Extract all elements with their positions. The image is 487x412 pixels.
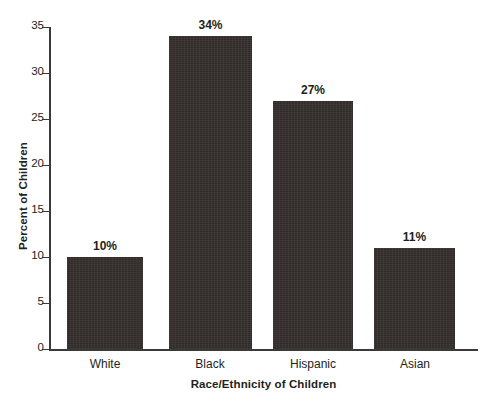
- bar-hispanic[interactable]: 27%: [273, 101, 353, 349]
- y-axis-title: Percent of Children: [17, 111, 29, 281]
- y-tick-label: 15: [31, 203, 44, 215]
- bar-chart: Percent of Children 0 5 10 15 20 25: [0, 0, 487, 412]
- plot-area: 0 5 10 15 20 25 30 35: [49, 27, 478, 349]
- x-axis-line: [49, 349, 478, 351]
- y-tick-label: 25: [31, 111, 44, 123]
- x-axis-title: Race/Ethnicity of Children: [49, 378, 478, 390]
- bar-value-label: 10%: [93, 239, 117, 253]
- bar-asian[interactable]: 11%: [374, 248, 455, 349]
- y-tick-label: 20: [31, 157, 44, 169]
- bar-black[interactable]: 34%: [169, 36, 252, 349]
- bar-value-label: 11%: [403, 230, 426, 244]
- bar-value-label: 34%: [198, 18, 222, 32]
- bar-white[interactable]: 10%: [67, 257, 143, 349]
- x-tick-label-black: Black: [195, 357, 224, 371]
- bar-value-label: 27%: [301, 83, 325, 97]
- y-tick-label: 10: [31, 249, 44, 261]
- x-tick-label-white: White: [90, 357, 121, 371]
- y-tick-label: 35: [31, 19, 44, 31]
- y-axis-line: [49, 27, 51, 349]
- y-tick-label: 0: [38, 341, 44, 353]
- x-tick-label-asian: Asian: [400, 357, 430, 371]
- x-tick-label-hispanic: Hispanic: [290, 357, 336, 371]
- y-tick-label: 30: [31, 65, 44, 77]
- y-tick-label: 5: [38, 295, 44, 307]
